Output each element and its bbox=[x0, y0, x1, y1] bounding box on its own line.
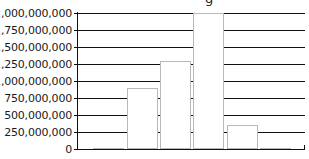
y-tick-label: 0 bbox=[65, 143, 72, 156]
y-tick-label: 250,000,000 bbox=[4, 126, 72, 139]
y-tick-label: 500,000,000 bbox=[4, 109, 72, 122]
x-axis-line bbox=[77, 149, 305, 150]
gridline bbox=[77, 98, 305, 99]
y-tick-label: 2,000,000,000 bbox=[0, 7, 72, 20]
bar-3 bbox=[160, 61, 191, 149]
x-axis-end-tick bbox=[304, 145, 305, 150]
y-tick-label: 1,750,000,000 bbox=[0, 24, 72, 37]
gridline bbox=[77, 30, 305, 31]
bar-2 bbox=[127, 88, 158, 149]
y-tick-label: 750,000,000 bbox=[4, 92, 72, 105]
y-tick-label: 1,250,000,000 bbox=[0, 58, 72, 71]
gridline bbox=[77, 115, 305, 116]
y-axis-line bbox=[77, 12, 78, 150]
gridline bbox=[77, 47, 305, 48]
chart-title-fragment: g bbox=[205, 0, 213, 6]
bar-chart: g 0250,000,000500,000,000750,000,0001,00… bbox=[0, 0, 309, 159]
bar-4 bbox=[193, 13, 224, 149]
gridline bbox=[77, 132, 305, 133]
gridline bbox=[77, 13, 305, 14]
y-tick-label: 1,500,000,000 bbox=[0, 41, 72, 54]
y-tick-label: 1,000,000,000 bbox=[0, 75, 72, 88]
bar-5 bbox=[227, 125, 258, 149]
gridline bbox=[77, 64, 305, 65]
gridline bbox=[77, 81, 305, 82]
